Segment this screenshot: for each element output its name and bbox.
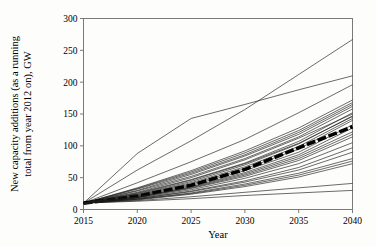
y-axis-title-line-1: New capacity additions (as a running: [9, 35, 21, 192]
y-tick-label: 150: [63, 109, 78, 119]
series-line: [84, 137, 353, 203]
y-tick-label: 300: [63, 14, 78, 24]
x-tick-label: 2030: [235, 216, 254, 226]
line-chart: 0501001502002503002015202020252030203520…: [0, 0, 376, 246]
y-tick-label: 50: [68, 173, 78, 183]
axis-labels: YearNew capacity additions (as a running…: [9, 35, 228, 239]
series-line: [84, 109, 353, 203]
series-layer: [84, 40, 353, 204]
x-tick-label: 2025: [182, 216, 201, 226]
y-axis-title-line-2: total from year 2012 on), GW: [22, 51, 34, 176]
x-axis-title: Year: [208, 229, 228, 240]
y-tick-label: 200: [63, 78, 78, 88]
series-line: [84, 116, 353, 203]
x-tick-label: 2020: [128, 216, 147, 226]
chart-figure: 0501001502002503002015202020252030203520…: [0, 0, 376, 246]
x-tick-label: 2040: [343, 216, 362, 226]
y-tick-label: 250: [63, 46, 78, 56]
y-tick-label: 0: [73, 205, 78, 215]
y-tick-label: 100: [63, 141, 78, 151]
x-tick-label: 2015: [74, 216, 93, 226]
x-tick-label: 2035: [289, 216, 308, 226]
